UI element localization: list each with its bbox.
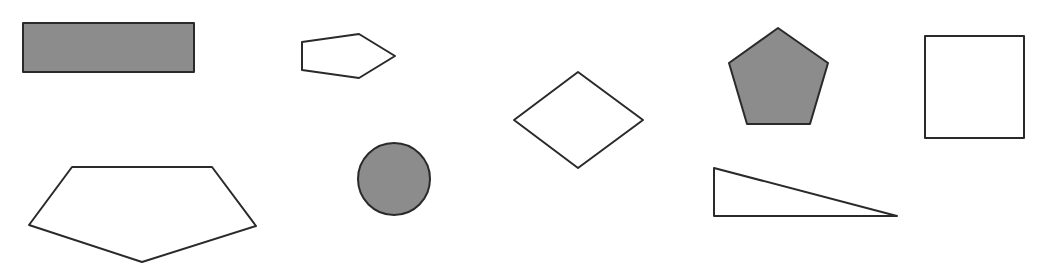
small-pentagon [302,34,395,78]
filled-circle [358,143,430,215]
shapes-diagram [0,0,1052,268]
square [925,36,1024,138]
right-triangle [714,168,897,216]
filled-pentagon [729,28,828,124]
large-pentagon [29,167,256,262]
shapes-canvas [0,0,1052,268]
diamond [514,72,643,168]
filled-rectangle [23,23,194,72]
